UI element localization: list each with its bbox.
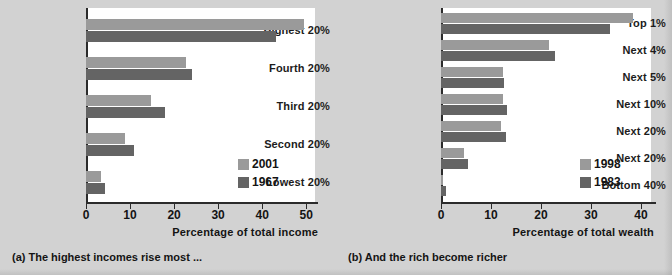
bar-1983-top-1- xyxy=(441,24,610,34)
category-row: Highest 20% xyxy=(6,11,330,49)
category-label: Next 20% xyxy=(573,125,666,137)
category-row: Lowest 20% xyxy=(6,163,330,201)
x-tick-label: 50 xyxy=(300,208,313,222)
x-axis-line-b xyxy=(441,202,656,204)
category-row: Next 5% xyxy=(342,64,666,91)
bar-1998-next-20- xyxy=(441,121,501,131)
panel-a-caption: (a) The highest incomes rise most ... xyxy=(12,251,202,263)
legend-swatch xyxy=(238,177,249,188)
legend-a: 20011967 xyxy=(238,156,279,192)
category-row: Top 1% xyxy=(342,10,666,37)
category-row: Next 10% xyxy=(342,91,666,118)
bar-2001-second-20- xyxy=(86,133,125,144)
x-tick-label: 10 xyxy=(123,208,136,222)
bar-1967-second-20- xyxy=(86,145,134,156)
x-tick-label: 40 xyxy=(634,208,647,222)
legend-item: 1983 xyxy=(580,174,621,190)
x-tick-label: 40 xyxy=(255,208,268,222)
legend-label: 1983 xyxy=(594,175,621,189)
bar-2001-fourth-20- xyxy=(86,57,186,68)
x-tick-label: 10 xyxy=(484,208,497,222)
bar-1998-next-4- xyxy=(441,40,549,50)
bar-1967-third-20- xyxy=(86,107,165,118)
bar-1983-next-5- xyxy=(441,78,504,88)
category-row: Next 20% xyxy=(342,118,666,145)
category-row: Second 20% xyxy=(6,125,330,163)
x-tick-label: 0 xyxy=(438,208,445,222)
legend-label: 2001 xyxy=(252,157,279,171)
legend-swatch xyxy=(238,159,249,170)
x-tick-label: 0 xyxy=(83,208,90,222)
bar-1983-next-20- xyxy=(441,159,468,169)
bar-1983-next-4- xyxy=(441,51,555,61)
bar-2001-lowest-20- xyxy=(86,171,101,182)
category-row: Next 4% xyxy=(342,37,666,64)
bar-2001-third-20- xyxy=(86,95,151,106)
x-axis-title-a: Percentage of total income xyxy=(172,226,318,238)
x-tick-label: 20 xyxy=(167,208,180,222)
category-row: Fourth 20% xyxy=(6,49,330,87)
panel-b-caption: (b) And the rich become richer xyxy=(348,251,507,263)
legend-item: 1998 xyxy=(580,156,621,172)
legend-swatch xyxy=(580,159,591,170)
bar-1998-bottom-40- xyxy=(441,175,443,185)
x-tick-label: 30 xyxy=(211,208,224,222)
bar-1998-next-20- xyxy=(441,148,464,158)
x-tick-label: 20 xyxy=(534,208,547,222)
x-tick-label: 30 xyxy=(584,208,597,222)
bar-1967-highest-20- xyxy=(86,31,276,42)
bar-1998-next-5- xyxy=(441,67,503,77)
legend-label: 1967 xyxy=(252,175,279,189)
category-label: Next 10% xyxy=(573,98,666,110)
legend-item: 2001 xyxy=(238,156,279,172)
category-label: Next 4% xyxy=(573,44,666,56)
x-axis-title-b: Percentage of total wealth xyxy=(512,226,654,238)
panel-a-inner: Highest 20%Fourth 20%Third 20%Second 20%… xyxy=(6,4,330,264)
chart-panel-a: Highest 20%Fourth 20%Third 20%Second 20%… xyxy=(0,0,336,275)
figure-root: Highest 20%Fourth 20%Third 20%Second 20%… xyxy=(0,0,672,275)
category-row: Third 20% xyxy=(6,87,330,125)
bar-1967-lowest-20- xyxy=(86,183,105,194)
bar-1983-next-20- xyxy=(441,132,506,142)
x-axis-line-a xyxy=(86,202,318,204)
category-label: Fourth 20% xyxy=(256,62,330,74)
category-label: Third 20% xyxy=(256,100,330,112)
category-label: Next 5% xyxy=(573,71,666,83)
category-label: Second 20% xyxy=(256,138,330,150)
bar-2001-highest-20- xyxy=(86,19,304,30)
legend-b: 19981983 xyxy=(580,156,621,192)
panel-b-inner: Top 1%Next 4%Next 5%Next 10%Next 20%Next… xyxy=(342,4,666,264)
legend-label: 1998 xyxy=(594,157,621,171)
legend-item: 1967 xyxy=(238,174,279,190)
bar-1967-fourth-20- xyxy=(86,69,192,80)
legend-swatch xyxy=(580,177,591,188)
bar-1983-next-10- xyxy=(441,105,507,115)
chart-panel-b: Top 1%Next 4%Next 5%Next 10%Next 20%Next… xyxy=(336,0,672,275)
bar-1998-next-10- xyxy=(441,94,503,104)
bar-1998-top-1- xyxy=(441,13,633,23)
bar-1983-bottom-40- xyxy=(441,186,446,196)
